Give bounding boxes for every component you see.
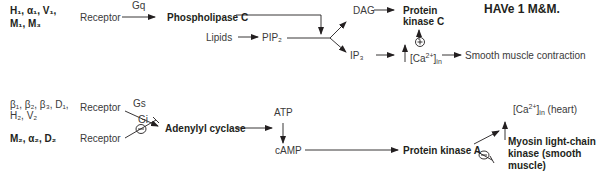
- to-dag-arrow: [330, 22, 346, 38]
- gq-receptors-line2: M₁, M₃: [10, 18, 41, 29]
- gs-receptors-line2: H₂, V₂: [10, 110, 37, 121]
- gi-protein-label: Gi: [138, 114, 148, 125]
- to-ip3-arrow: [330, 38, 346, 52]
- gq-receptors-line1: H₁, α₁, V₁,: [10, 5, 56, 16]
- gq-receptor-label: Receptor: [80, 12, 121, 23]
- dag-label: DAG: [353, 5, 375, 16]
- pka-label: Protein kinase A: [403, 145, 481, 156]
- mlck-label-line3: muscle): [508, 160, 546, 171]
- camp-label: cAMP: [275, 145, 302, 156]
- gi-receptor-label: Receptor: [80, 133, 121, 144]
- ca-heart-label: [Ca2+]in (heart): [513, 101, 577, 118]
- pkc-label-line2: kinase C: [403, 16, 444, 27]
- gq-protein-label: Gq: [132, 0, 145, 11]
- atp-label: ATP: [274, 107, 293, 118]
- gs-receptors-line1: β₁, β₂, β₃, D₁,: [10, 99, 69, 110]
- mlck-label-line1: Myosin light-chain: [508, 136, 596, 147]
- smooth-muscle-contraction-label: Smooth muscle contraction: [465, 50, 586, 61]
- lipids-label: Lipids: [206, 32, 232, 43]
- diagram-title: HAVe 1 M&M.: [484, 4, 560, 15]
- ca-in-label: [Ca2+]in: [410, 50, 442, 67]
- phospholipase-c-label: Phospholipase C: [167, 12, 248, 23]
- gs-receptor-label: Receptor: [80, 102, 121, 113]
- pip2-label: PIP₂: [262, 32, 282, 43]
- pkc-label-line1: Protein: [403, 5, 437, 16]
- gi-receptors-label: M₂, α₂, D₂: [10, 133, 56, 144]
- ip3-label: IP₃: [350, 50, 364, 61]
- pka-to-ca-arrow: [474, 131, 499, 144]
- gs-protein-label: Gs: [133, 98, 146, 109]
- mlck-label-line2: kinase (smooth: [508, 148, 581, 159]
- adenylyl-cyclase-label: Adenylyl cyclase: [165, 123, 246, 134]
